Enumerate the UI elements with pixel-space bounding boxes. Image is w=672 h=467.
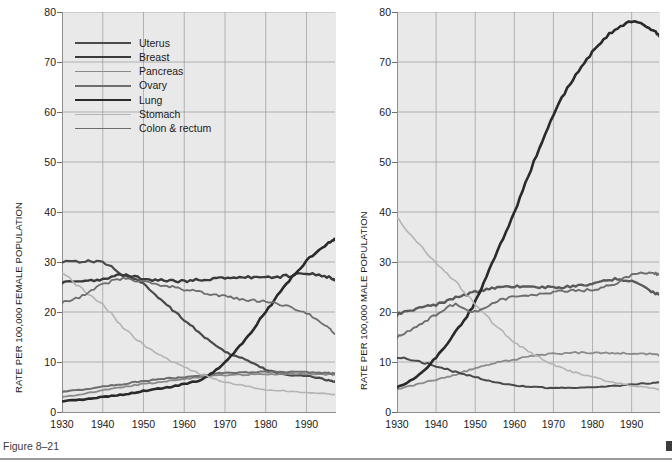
x-tick-label: 1970 bbox=[542, 418, 565, 430]
plot-area-male bbox=[397, 12, 659, 412]
legend-swatch-icon bbox=[75, 71, 131, 72]
legend-label: Lung bbox=[139, 95, 162, 106]
legend-female: UterusBreastPancreasOvaryLungStomachColo… bbox=[75, 36, 211, 135]
y-tick-mark bbox=[392, 112, 397, 113]
y-tick-label: 40 bbox=[379, 206, 391, 218]
x-tick-label: 1980 bbox=[254, 418, 277, 430]
page-edge-mark bbox=[666, 441, 672, 451]
y-tick-label: 20 bbox=[44, 306, 56, 318]
footer-rule bbox=[0, 458, 672, 460]
legend-label: Ovary bbox=[139, 80, 167, 91]
y-axis-ticks-male: 80706050403020100 bbox=[363, 0, 397, 440]
x-tick-label: 1950 bbox=[464, 418, 487, 430]
legend-swatch-icon bbox=[75, 99, 131, 101]
legend-swatch-icon bbox=[75, 85, 131, 87]
figure-container: RATE PER 100,000 FEMALE POPULATION 80706… bbox=[0, 0, 672, 467]
legend-item-lung[interactable]: Lung bbox=[75, 93, 211, 107]
y-tick-mark bbox=[57, 12, 62, 13]
y-tick-mark bbox=[57, 212, 62, 213]
y-tick-mark bbox=[392, 362, 397, 363]
y-tick-mark bbox=[392, 12, 397, 13]
y-tick-mark bbox=[57, 262, 62, 263]
y-tick-mark bbox=[392, 62, 397, 63]
y-tick-label: 80 bbox=[44, 6, 56, 18]
x-tick-label: 1940 bbox=[424, 418, 447, 430]
legend-label: Pancreas bbox=[139, 66, 183, 77]
x-axis-ticks-female: 1930194019501960197019801990 bbox=[62, 418, 335, 434]
legend-item-uterus[interactable]: Uterus bbox=[75, 36, 211, 50]
legend-label: Stomach bbox=[139, 109, 180, 120]
y-tick-label: 60 bbox=[379, 106, 391, 118]
legend-item-breast[interactable]: Breast bbox=[75, 50, 211, 64]
legend-item-colon-rectum[interactable]: Colon & rectum bbox=[75, 121, 211, 135]
y-tick-label: 0 bbox=[50, 406, 56, 418]
y-tick-label: 10 bbox=[44, 356, 56, 368]
x-tick-label: 1930 bbox=[50, 418, 73, 430]
y-tick-mark bbox=[392, 412, 397, 413]
y-tick-mark bbox=[57, 62, 62, 63]
y-tick-mark bbox=[57, 312, 62, 313]
y-tick-label: 70 bbox=[379, 56, 391, 68]
y-axis-label-female: RATE PER 100,000 FEMALE POPULATION bbox=[13, 202, 24, 393]
y-tick-mark bbox=[392, 212, 397, 213]
legend-swatch-icon bbox=[75, 56, 131, 58]
x-tick-label: 1970 bbox=[213, 418, 236, 430]
chart-panel-male: RATE PER 100,000 MALE POPULATION 8070605… bbox=[345, 0, 672, 440]
x-tick-label: 1980 bbox=[581, 418, 604, 430]
y-tick-label: 30 bbox=[379, 256, 391, 268]
y-tick-label: 60 bbox=[44, 106, 56, 118]
y-tick-mark bbox=[392, 162, 397, 163]
y-tick-mark bbox=[57, 412, 62, 413]
legend-item-ovary[interactable]: Ovary bbox=[75, 79, 211, 93]
y-tick-label: 0 bbox=[385, 406, 391, 418]
legend-item-stomach[interactable]: Stomach bbox=[75, 107, 211, 121]
x-tick-label: 1940 bbox=[91, 418, 114, 430]
x-tick-label: 1960 bbox=[173, 418, 196, 430]
y-tick-label: 20 bbox=[379, 306, 391, 318]
y-tick-mark bbox=[392, 312, 397, 313]
figure-caption: Figure 8–21 bbox=[3, 440, 59, 452]
x-axis-ticks-male: 1930194019501960197019801990 bbox=[397, 418, 659, 434]
y-tick-mark bbox=[57, 162, 62, 163]
y-tick-label: 50 bbox=[379, 156, 391, 168]
x-tick-label: 1990 bbox=[295, 418, 318, 430]
legend-label: Breast bbox=[139, 52, 169, 63]
y-tick-mark bbox=[57, 112, 62, 113]
y-axis-ticks-female: 80706050403020100 bbox=[28, 0, 62, 440]
y-tick-label: 50 bbox=[44, 156, 56, 168]
y-tick-label: 10 bbox=[379, 356, 391, 368]
x-tick-label: 1950 bbox=[132, 418, 155, 430]
y-tick-label: 40 bbox=[44, 206, 56, 218]
y-tick-mark bbox=[392, 262, 397, 263]
legend-swatch-icon bbox=[75, 42, 131, 44]
legend-item-pancreas[interactable]: Pancreas bbox=[75, 64, 211, 78]
y-tick-label: 30 bbox=[44, 256, 56, 268]
y-tick-mark bbox=[57, 362, 62, 363]
legend-swatch-icon bbox=[75, 128, 131, 129]
y-tick-label: 80 bbox=[379, 6, 391, 18]
legend-swatch-icon bbox=[75, 114, 131, 115]
x-tick-label: 1960 bbox=[503, 418, 526, 430]
legend-label: Colon & rectum bbox=[139, 123, 211, 134]
legend-label: Uterus bbox=[139, 38, 170, 49]
x-tick-label: 1990 bbox=[620, 418, 643, 430]
plot-lines-male bbox=[397, 12, 659, 412]
y-tick-label: 70 bbox=[44, 56, 56, 68]
x-tick-label: 1930 bbox=[385, 418, 408, 430]
chart-panel-female: RATE PER 100,000 FEMALE POPULATION 80706… bbox=[0, 0, 345, 440]
